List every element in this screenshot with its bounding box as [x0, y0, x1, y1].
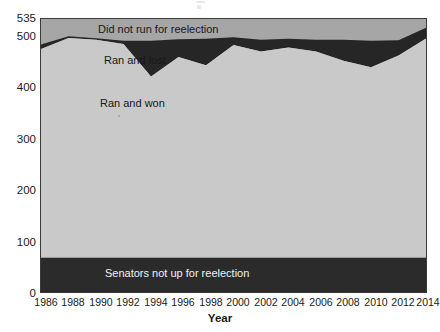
x-tick-label: 2006 [309, 296, 332, 308]
x-axis: 1986 1988 1990 1992 1994 1996 1998 2000 … [0, 296, 440, 312]
cropped-title-artifact [196, 1, 205, 9]
band-label-ran-and-lost: Ran and lost [104, 54, 166, 66]
band-label-senators-not-up: Senators not up for reelection [105, 267, 249, 279]
x-tick-label: 2012 [391, 296, 414, 308]
band-label-did-not-run: Did not run for reelection [98, 23, 218, 35]
x-tick-label: 2002 [254, 296, 277, 308]
y-tick-label: 400 [17, 81, 36, 93]
area-chart: 535 500 400 300 200 100 0 Did not run fo… [0, 0, 440, 332]
x-tick-label: 1996 [171, 296, 194, 308]
x-tick-label: 2000 [226, 296, 249, 308]
x-tick-label: 1992 [116, 296, 139, 308]
y-tick-label: 535 [17, 12, 36, 24]
band-ran-and-won [41, 38, 426, 258]
y-tick-label: 300 [17, 133, 36, 145]
x-tick-label: 2014 [416, 296, 439, 308]
plot-area: Did not run for reelection Ran and lost … [40, 18, 427, 293]
scan-speck [118, 115, 120, 117]
band-label-ran-and-won: Ran and won [100, 97, 165, 109]
y-tick-label: 500 [17, 30, 36, 42]
y-tick-label: 200 [17, 184, 36, 196]
x-axis-title: Year [0, 312, 440, 324]
x-tick-label: 1998 [199, 296, 222, 308]
y-axis: 535 500 400 300 200 100 0 [0, 0, 36, 332]
x-tick-label: 1990 [89, 296, 112, 308]
stacked-area-svg [41, 19, 426, 292]
x-tick-label: 2008 [336, 296, 359, 308]
x-tick-label: 1994 [144, 296, 167, 308]
x-tick-label: 1988 [61, 296, 84, 308]
x-tick-label: 1986 [34, 296, 57, 308]
x-tick-label: 2004 [281, 296, 304, 308]
y-tick-label: 100 [17, 236, 36, 248]
x-tick-label: 2010 [364, 296, 387, 308]
